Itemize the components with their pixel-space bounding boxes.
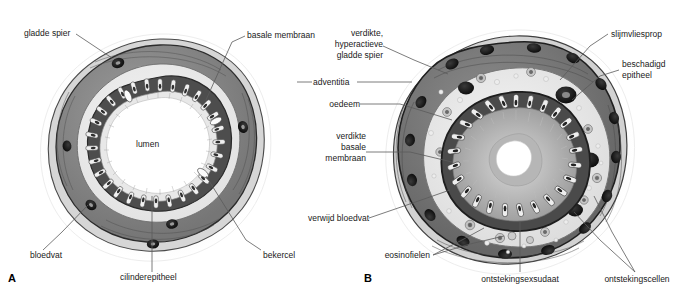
label-cilinderepitheel: cilinderepitheel — [120, 272, 177, 283]
label-slijmvliesprop: slijmvliesprop — [611, 29, 662, 40]
label-eosinofielen: eosinofielen — [368, 250, 430, 261]
label-line-hyperactieve: hyperactieve — [283, 39, 383, 50]
panel-letter-b: B — [364, 272, 372, 284]
label-verwijd-bloedvat: verwijd bloedvat — [289, 213, 369, 224]
label-ontstekingscellen: ontstekingscellen — [592, 274, 682, 285]
label-beschadigd-epitheel: beschadigd epitheel — [622, 59, 665, 81]
label-line-verdikte-b: verdikte — [290, 131, 366, 142]
label-bloedvat: bloedvat — [30, 250, 62, 261]
label-verdikte-basale-membraan: verdikte basale membraan — [290, 131, 366, 164]
label-ontstekingsexsudaat: ontstekingsexsudaat — [466, 274, 574, 285]
figure-canvas: gladde spier basale membraan lumen bloed… — [0, 0, 700, 304]
label-oedeem: oedeem — [300, 99, 360, 110]
label-line-beschadigd: beschadigd — [622, 59, 665, 70]
label-line-epitheel: epitheel — [622, 70, 665, 81]
label-line-gladde-spier: gladde spier — [283, 50, 383, 61]
label-line-verdikte: verdikte, — [283, 28, 383, 39]
label-bekercel: bekercel — [263, 250, 295, 261]
label-adventitia: adventitia — [313, 77, 349, 88]
label-line-membraan-b: membraan — [290, 153, 366, 164]
label-gladde-spier: gladde spier — [24, 28, 70, 39]
label-line-basale-b: basale — [290, 142, 366, 153]
panel-letter-a: A — [8, 272, 16, 284]
label-verdikte-hyperactieve-gladde-spier: verdikte, hyperactieve gladde spier — [283, 28, 383, 61]
label-lumen: lumen — [136, 139, 159, 150]
